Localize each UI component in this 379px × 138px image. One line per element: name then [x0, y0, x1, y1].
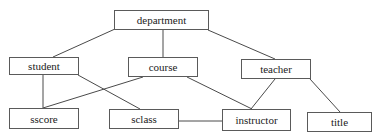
- node-label: course: [149, 61, 178, 73]
- node-label: instructor: [235, 114, 277, 126]
- node-label: teacher: [260, 63, 292, 75]
- edge-course-sscore: [43, 77, 143, 108]
- node-course: course: [128, 57, 198, 77]
- node-label: sclass: [131, 113, 157, 125]
- node-title: title: [307, 112, 372, 132]
- edge-department-teacher: [208, 30, 275, 59]
- hierarchy-diagram: department student course teacher sscore…: [0, 0, 379, 138]
- node-label: sscore: [30, 113, 58, 125]
- node-sscore: sscore: [9, 108, 79, 129]
- node-sclass: sclass: [109, 109, 179, 129]
- edge-teacher-instructor: [251, 79, 275, 109]
- edge-teacher-title: [310, 79, 340, 112]
- node-instructor: instructor: [222, 109, 291, 131]
- edge-department-student: [53, 29, 115, 57]
- node-teacher: teacher: [241, 59, 311, 79]
- edge-course-instructor: [187, 77, 252, 109]
- node-label: student: [28, 60, 60, 72]
- edge-student-sclass: [78, 75, 140, 109]
- node-label: title: [331, 116, 348, 128]
- node-department: department: [114, 10, 209, 30]
- node-label: department: [137, 14, 186, 26]
- node-student: student: [9, 57, 79, 75]
